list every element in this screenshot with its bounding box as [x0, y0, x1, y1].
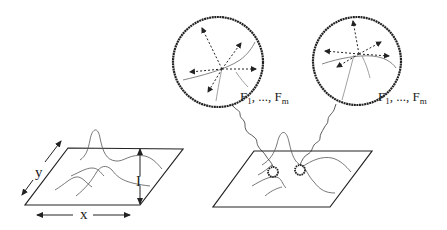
magnifier-circle-2: [313, 17, 401, 105]
y-axis-label: y: [35, 164, 43, 180]
selected-point-2: [295, 165, 305, 175]
left-ridge-2: [55, 177, 92, 190]
right-surface-plot: [213, 102, 372, 207]
right-ridge-4: [258, 165, 272, 175]
connector-line-2: [300, 104, 336, 165]
right-main-peak: [262, 132, 335, 193]
right-ridge-2: [265, 187, 282, 196]
selected-point-1: [268, 167, 278, 177]
left-main-peak: [80, 130, 162, 169]
right-ridge-3: [302, 157, 351, 172]
connector-line-1: [228, 102, 273, 167]
intensity-label: I: [136, 173, 141, 189]
right-ridge-1: [252, 177, 286, 188]
y-arrow-down: [22, 180, 33, 195]
x-axis-label: x: [80, 206, 88, 222]
right-image-plane: [213, 151, 372, 207]
diagram-figure: I y x: [0, 0, 447, 230]
magnifier-circle-1: [173, 17, 263, 107]
left-surface-plot: I y x: [22, 130, 183, 222]
y-arrow-up: [45, 141, 61, 162]
